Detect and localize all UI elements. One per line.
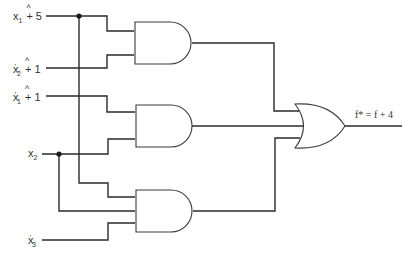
hat-plus-operator: +: [25, 64, 31, 75]
input-label-x2: x2: [28, 148, 37, 161]
var-subscript: 1: [17, 98, 21, 105]
prime-mark: ': [15, 90, 17, 99]
and-gate-3: [136, 190, 192, 232]
wire-and3-to-or: [193, 138, 300, 211]
wire-and1-to-or: [192, 43, 300, 111]
constant-value: 5: [36, 10, 42, 22]
junction-dot: [76, 13, 81, 18]
junction-dot: [56, 151, 61, 156]
input-label-x1prime-plus1: x'1+1: [13, 91, 41, 105]
constant-value: 1: [34, 91, 40, 103]
var-subscript: 1: [19, 17, 23, 24]
var-subscript: 2: [17, 70, 21, 77]
wire-x2prime-plus1: [46, 55, 134, 68]
hat-plus-operator: +: [25, 92, 31, 103]
input-label-x2prime-plus1: x'2+1: [13, 63, 41, 77]
wire-x2: [42, 139, 135, 154]
circuit-drawing: [0, 0, 413, 262]
and-gate-2: [136, 105, 192, 147]
prime-mark: ': [30, 233, 32, 242]
hat-plus-operator: +: [26, 11, 32, 22]
input-label-x1-plus5: x1+5: [13, 11, 42, 24]
constant-value: 1: [34, 63, 40, 75]
prime-mark: ': [15, 62, 17, 71]
and-gate-1: [135, 22, 191, 64]
wire-x1-plus5: [46, 16, 134, 31]
var-subscript: 2: [34, 154, 38, 161]
logic-circuit-diagram: x1+5 x'2+1 x'1+1 x2 x'3 f* = f + 4: [0, 0, 413, 262]
wire-x1prime-plus1: [46, 96, 135, 112]
input-label-x3prime: x'3: [28, 234, 36, 248]
wire-x3prime: [42, 223, 135, 240]
var-subscript: 3: [32, 241, 36, 248]
output-label: f* = f + 4: [355, 110, 393, 120]
